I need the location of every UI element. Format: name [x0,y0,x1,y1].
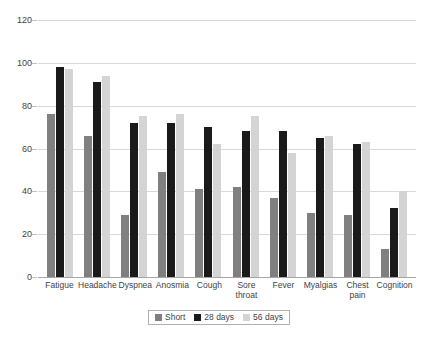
y-axis-tick-mark [32,20,37,21]
y-axis-tick-mark [32,191,37,192]
bar [362,142,370,277]
bar-group [376,20,413,277]
x-axis-tick-label: Dyspnea [117,280,154,300]
y-axis-tick-mark [32,149,37,150]
bar [353,144,361,277]
bar-group [78,20,115,277]
bar [176,114,184,277]
legend-swatch [243,314,250,321]
bar [325,136,333,277]
bar [84,136,92,277]
y-axis-tick-label: 0 [0,273,32,282]
y-axis-tick-mark [32,63,37,64]
legend-swatch [194,314,201,321]
bar [288,153,296,277]
bar [316,138,324,277]
chart-legend: Short28 days56 days [148,310,290,325]
bar-groups [38,20,416,277]
bar [158,172,166,277]
bar [204,127,212,277]
legend-item: Short [155,313,185,322]
bar [65,69,73,277]
bar-group [264,20,301,277]
bar [270,198,278,277]
bar-group [190,20,227,277]
bar-group [115,20,152,277]
bar [102,76,110,277]
bar-group [339,20,376,277]
bar [167,123,175,277]
bar-chart: 020406080100120 FatigueHeadacheDyspneaAn… [0,0,428,340]
bar [399,191,407,277]
bar-group [301,20,338,277]
bar [47,114,55,277]
bar-group [227,20,264,277]
y-axis-tick-label: 120 [0,16,32,25]
legend-label: Short [165,313,185,322]
x-axis-tick-label: Chest pain [339,280,376,300]
legend-item: 56 days [243,313,283,322]
bar [213,144,221,277]
x-axis-tick-label: Cough [191,280,228,300]
bar [121,215,129,277]
x-axis-tick-label: Headache [78,280,117,300]
bar [279,131,287,277]
bar [381,249,389,277]
y-axis-tick-mark [32,234,37,235]
bar [344,215,352,277]
x-axis-tick-label: Sore throat [228,280,265,300]
y-axis-tick-label: 100 [0,58,32,67]
plot-area [38,20,416,277]
y-axis-tick-label: 60 [0,144,32,153]
x-axis-tick-label: Fever [265,280,302,300]
bar [56,67,64,277]
y-axis-tick-label: 20 [0,230,32,239]
legend-swatch [155,314,162,321]
bar [233,187,241,277]
x-axis-tick-label: Fatigue [41,280,78,300]
x-axis-labels: FatigueHeadacheDyspneaAnosmiaCoughSore t… [38,280,416,300]
bar [130,123,138,277]
y-axis-tick-label: 40 [0,187,32,196]
legend-label: 28 days [204,313,234,322]
x-axis-tick-label: Myalgias [302,280,339,300]
bar-group [153,20,190,277]
bar [251,116,259,277]
bar [390,208,398,277]
legend-label: 56 days [253,313,283,322]
bar-group [41,20,78,277]
y-axis-tick-mark [32,277,37,278]
bar [307,213,315,277]
bar [93,82,101,277]
legend-item: 28 days [194,313,234,322]
y-axis-tick-label: 80 [0,101,32,110]
gridline [38,277,416,278]
y-axis-tick-mark [32,106,37,107]
bar [195,189,203,277]
x-axis-tick-label: Cognition [376,280,413,300]
bar [242,131,250,277]
bar [139,116,147,277]
x-axis-tick-label: Anosmia [154,280,191,300]
